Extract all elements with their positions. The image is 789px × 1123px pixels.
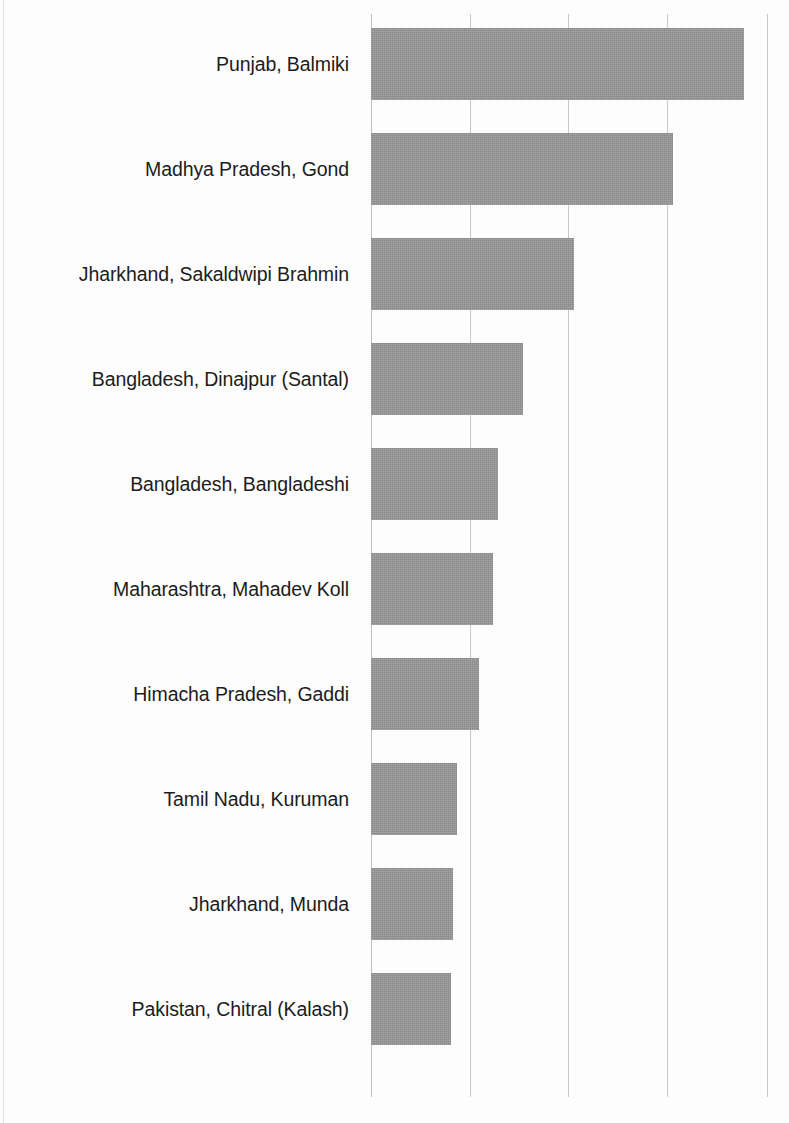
category-label: Jharkhand, Sakaldwipi Brahmin — [79, 263, 349, 285]
category-label: Himacha Pradesh, Gaddi — [133, 683, 349, 705]
category-label: Punjab, Balmiki — [216, 53, 349, 75]
bar — [371, 553, 493, 625]
category-labels: Punjab, BalmikiMadhya Pradesh, GondJhark… — [0, 0, 371, 1123]
category-label: Pakistan, Chitral (Kalash) — [132, 998, 349, 1020]
category-label: Tamil Nadu, Kuruman — [163, 788, 349, 810]
bars-layer — [371, 0, 789, 1123]
bar — [371, 868, 453, 940]
bar — [371, 448, 498, 520]
bar — [371, 238, 574, 310]
bar — [371, 658, 479, 730]
category-label: Bangladesh, Bangladeshi — [130, 473, 349, 495]
bar — [371, 28, 744, 100]
category-label: Madhya Pradesh, Gond — [145, 158, 349, 180]
bar — [371, 343, 523, 415]
bar — [371, 133, 673, 205]
bar — [371, 763, 457, 835]
category-label: Bangladesh, Dinajpur (Santal) — [92, 368, 349, 390]
category-label: Maharashtra, Mahadev Koll — [113, 578, 349, 600]
category-label: Jharkhand, Munda — [189, 893, 349, 915]
bar-chart: Punjab, BalmikiMadhya Pradesh, GondJhark… — [0, 0, 789, 1123]
bar — [371, 973, 451, 1045]
